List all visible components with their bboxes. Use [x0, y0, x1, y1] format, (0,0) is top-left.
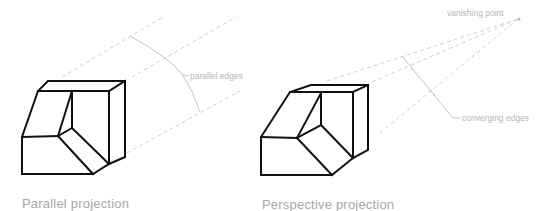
- converging-guide-line-2: [372, 19, 518, 82]
- converging-edges-label: converging edges: [462, 113, 529, 123]
- leader-intersection-mark-2: [433, 94, 435, 96]
- projection-diagram: parallel edges Parallel projection: [0, 0, 553, 211]
- parallel-projection-panel: parallel edges Parallel projection: [22, 17, 243, 211]
- perspective-projection-caption: Perspective projection: [262, 197, 394, 211]
- parallel-guide-line-3: [127, 91, 240, 153]
- perspective-projection-panel: vanishing point converging edges Perspec…: [261, 8, 529, 211]
- perspective-chamfer-upper-edge: [321, 125, 353, 158]
- vanishing-point-marker: [517, 17, 520, 20]
- converging-guide-line-1: [327, 19, 518, 81]
- parallel-guide-line-1: [62, 17, 163, 77]
- vanishing-point-label: vanishing point: [447, 8, 504, 18]
- parallel-mid-horizontal: [22, 136, 58, 137]
- perspective-object-outline: [261, 85, 368, 175]
- perspective-object: [261, 85, 368, 175]
- perspective-top-right-edge: [353, 85, 368, 92]
- parallel-top-right-edge: [109, 81, 125, 91]
- perspective-chamfer-lower-edge: [297, 138, 332, 175]
- parallel-guide-lines: [62, 17, 240, 153]
- parallel-chamfer-lower-edge: [58, 136, 93, 174]
- parallel-projection-caption: Parallel projection: [22, 196, 129, 211]
- perspective-mid-horizontal: [261, 137, 297, 138]
- leader-intersection-mark-1: [411, 68, 413, 70]
- parallel-edges-label: parallel edges: [190, 71, 243, 81]
- parallel-object: [22, 81, 125, 174]
